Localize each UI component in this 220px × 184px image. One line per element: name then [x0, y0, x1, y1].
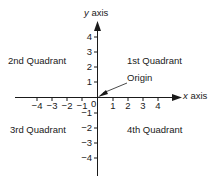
y-tick-label: −2: [78, 123, 92, 133]
x-tick-label: −4: [30, 101, 44, 111]
x-tick-label: 4: [151, 101, 165, 111]
y-tick-label: 2: [78, 62, 92, 72]
quadrant-2-label: 2nd Quadrant: [8, 56, 66, 66]
x-tick-label: 3: [136, 101, 150, 111]
coordinate-plane-diagram: y axis x axis 2nd Quadrant 1st Quadrant …: [0, 0, 220, 184]
x-tick-label: −1: [75, 101, 89, 111]
y-tick-label: −3: [78, 138, 92, 148]
quadrant-1-label: 1st Quadrant: [127, 56, 182, 66]
x-tick-label: −3: [45, 101, 59, 111]
x-axis-arrow-icon: [172, 94, 182, 101]
x-axis-label: x axis: [183, 91, 207, 101]
origin-zero-label: 0: [91, 99, 96, 109]
y-tick-label: −4: [78, 153, 92, 163]
y-axis-label: y axis: [84, 8, 108, 18]
y-axis-arrow-icon: [94, 21, 101, 31]
y-tick-label: 4: [78, 32, 92, 42]
quadrant-3-label: 3rd Quadrant: [10, 125, 66, 135]
x-tick-label: 1: [106, 101, 120, 111]
x-tick-label: 2: [121, 101, 135, 111]
quadrant-4-label: 4th Quadrant: [127, 125, 182, 135]
y-tick-label: 1: [78, 77, 92, 87]
origin-label: Origin: [127, 73, 152, 83]
x-tick-label: −2: [60, 101, 74, 111]
origin-pointer-arrow-icon: [98, 90, 108, 97]
y-tick-label: 3: [78, 47, 92, 57]
